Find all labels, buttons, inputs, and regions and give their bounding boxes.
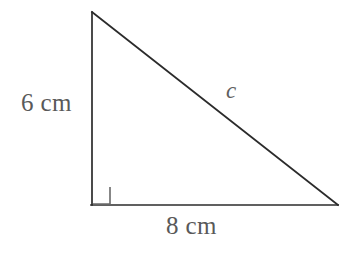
label-leg-vertical: 6 cm (21, 90, 72, 115)
figure-canvas: 6 cm 8 cm c (0, 0, 359, 260)
label-hypotenuse: c (226, 79, 236, 102)
right-angle-marker-icon (93, 187, 110, 204)
triangle-hypotenuse (92, 12, 338, 205)
label-leg-horizontal: 8 cm (166, 213, 217, 238)
